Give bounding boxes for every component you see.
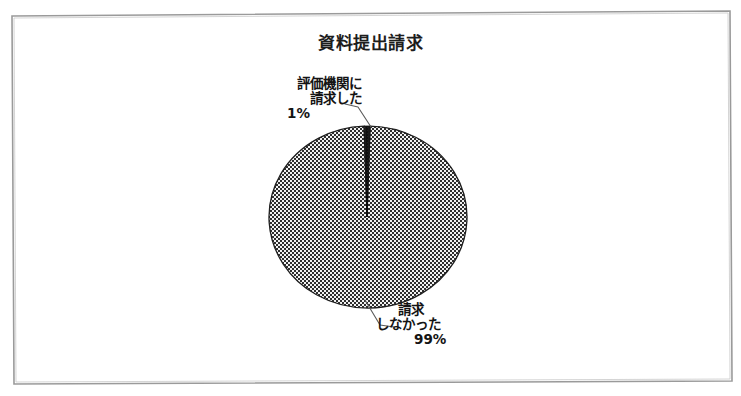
pie-label-requested-percent: 1% (190, 106, 362, 121)
pie-label-not-requested-line2: しなかった (376, 317, 566, 332)
pie-label-not-requested: 請求 しなかった 99% (376, 302, 566, 347)
pie-label-requested-line1: 評価機関に (190, 76, 362, 91)
pie-label-not-requested-line1: 請求 (376, 302, 566, 317)
pie-chart-figure: 資料提出請求 (0, 0, 741, 396)
pie-label-requested: 評価機関に 請求した 1% (190, 76, 362, 121)
pie-graphic (0, 0, 741, 396)
pie-label-not-requested-percent: 99% (376, 332, 566, 347)
pie-label-requested-line2: 請求した (190, 91, 362, 106)
